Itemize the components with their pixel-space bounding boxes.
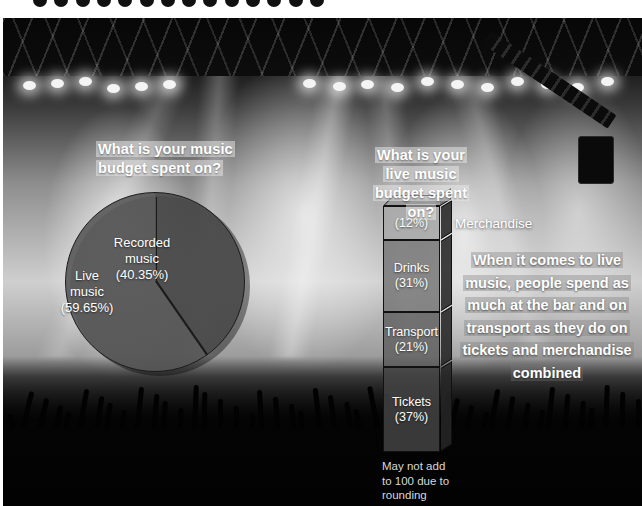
crowd-hand bbox=[257, 390, 264, 428]
bar-side-face-tickets bbox=[441, 361, 452, 451]
scallop-dot bbox=[54, 0, 68, 7]
crowd-hand bbox=[353, 409, 361, 429]
crowd-hand bbox=[538, 410, 545, 428]
scallop-dot bbox=[203, 0, 217, 7]
crowd-hand bbox=[218, 399, 223, 428]
crowd-hand bbox=[120, 410, 127, 428]
stage-lamp bbox=[511, 77, 524, 86]
pie-slice-label-live-music: Live music (59.65%) bbox=[42, 268, 132, 316]
bar-segment-value-transport: (21%) bbox=[395, 340, 428, 355]
stage-lamp bbox=[303, 79, 316, 88]
crowd-hand bbox=[546, 387, 555, 428]
crowd-hand bbox=[489, 389, 501, 428]
crowd-hand bbox=[273, 397, 280, 428]
bar-chart-title-text: What is your live music budget spent on? bbox=[373, 147, 469, 220]
stage-lamp bbox=[23, 81, 36, 90]
stage-lamp bbox=[51, 79, 64, 88]
scallop-dot bbox=[118, 0, 132, 7]
crowd-hand bbox=[20, 391, 34, 428]
crowd-hand bbox=[620, 392, 626, 428]
crowd-hand bbox=[588, 408, 594, 428]
crowd-hand bbox=[135, 387, 144, 428]
stage-lamp bbox=[333, 82, 346, 91]
scallop-dot bbox=[267, 0, 281, 7]
insight-callout-text: When it comes to live music, people spen… bbox=[460, 252, 633, 381]
crowd-hand bbox=[78, 389, 90, 428]
bar-segment-label-drinks: Drinks bbox=[394, 261, 429, 276]
crowd-hand bbox=[177, 408, 183, 428]
rig-light-box bbox=[578, 136, 614, 184]
scallop-dot bbox=[225, 0, 239, 7]
crowd-hand bbox=[563, 394, 571, 428]
scallop-dot bbox=[140, 0, 154, 7]
scallop-dot bbox=[76, 0, 90, 7]
scallop-dot bbox=[246, 0, 260, 7]
crowd-hand bbox=[505, 396, 515, 428]
bar-chart-title: What is your live music budget spent on? bbox=[362, 146, 480, 222]
crowd-hand bbox=[344, 402, 353, 428]
crowd-hand bbox=[604, 385, 610, 428]
pie-chart-title-text: What is your music budget spent on? bbox=[96, 141, 235, 176]
scalloped-dot-strip bbox=[0, 0, 642, 18]
crowd-hand bbox=[465, 405, 475, 429]
stage-lamp bbox=[107, 84, 120, 93]
crowd-hand bbox=[579, 401, 586, 428]
scallop-dot bbox=[97, 0, 111, 7]
bar-segment-value-tickets: (37%) bbox=[395, 410, 428, 425]
insight-callout: When it comes to live music, people spen… bbox=[458, 249, 636, 384]
crowd-hand bbox=[312, 388, 322, 428]
scallop-dot bbox=[33, 0, 47, 7]
crowd-hand bbox=[193, 385, 199, 428]
stage-lamp bbox=[421, 77, 434, 86]
crowd-hand bbox=[152, 394, 160, 428]
crowd-hand bbox=[161, 401, 168, 428]
pie-slice-divider-lower bbox=[155, 281, 208, 356]
stage-lamp bbox=[391, 83, 404, 92]
stage-lamp bbox=[135, 82, 148, 91]
bar-segment-transport: Transport (21%) bbox=[383, 312, 440, 367]
bar-external-label-merchandise: Merchandise bbox=[455, 216, 532, 231]
bar-segment-drinks: Drinks (31%) bbox=[383, 240, 440, 312]
stage-lamp bbox=[451, 80, 464, 89]
scallop-dot bbox=[182, 0, 196, 7]
crowd-hand bbox=[289, 404, 296, 428]
stage-lamp bbox=[79, 77, 92, 86]
pie-slice-label-recorded-line1: Recorded bbox=[94, 235, 190, 251]
stage-lamp bbox=[163, 80, 176, 89]
pie-chart-title: What is your music budget spent on? bbox=[96, 140, 246, 178]
crowd-hand bbox=[7, 414, 15, 429]
crowd-hand bbox=[636, 399, 641, 428]
bar-segment-label-tickets: Tickets bbox=[392, 395, 431, 410]
crowd-hand bbox=[522, 403, 530, 428]
pie-slice-value-live: (59.65%) bbox=[42, 300, 132, 316]
chart-footnote-line3: rounding bbox=[382, 488, 472, 503]
scallop-dot bbox=[289, 0, 303, 7]
pie-slice-label-live-line1: Live bbox=[42, 268, 132, 284]
scallop-dot bbox=[310, 0, 324, 7]
crowd-hand bbox=[249, 413, 255, 428]
pie-slice-label-live-line2: music bbox=[42, 284, 132, 300]
crowd-hand bbox=[367, 386, 380, 428]
bar-side-face-transport bbox=[441, 306, 452, 366]
stage-lamp bbox=[361, 80, 374, 89]
crowd-hand bbox=[298, 411, 305, 428]
chart-footnote-line1: May not add bbox=[382, 459, 472, 474]
chart-footnote-line2: to 100 due to bbox=[382, 474, 472, 489]
pie-slice-label-recorded-line2: music bbox=[94, 251, 190, 267]
bar-segment-label-transport: Transport bbox=[385, 325, 438, 340]
scallop-dot bbox=[161, 0, 175, 7]
crowd-hand bbox=[104, 403, 112, 428]
stage-lamp bbox=[601, 77, 614, 86]
crowd-hand bbox=[64, 412, 72, 429]
crowd-hand bbox=[202, 392, 208, 428]
stage-lamp bbox=[481, 83, 494, 92]
bar-side-face-drinks bbox=[441, 234, 452, 311]
stacked-bar-chart: (12%) Drinks (31%) Transport (21%) Ticke… bbox=[383, 206, 453, 456]
crowd-hand bbox=[234, 406, 239, 428]
crowd-hand bbox=[328, 395, 338, 428]
crowd-hand bbox=[54, 405, 64, 429]
bar-segment-tickets: Tickets (37%) bbox=[383, 367, 440, 452]
bar-segment-value-drinks: (31%) bbox=[395, 276, 428, 291]
crowd-hand bbox=[94, 396, 104, 428]
crowd-hand bbox=[37, 398, 49, 428]
